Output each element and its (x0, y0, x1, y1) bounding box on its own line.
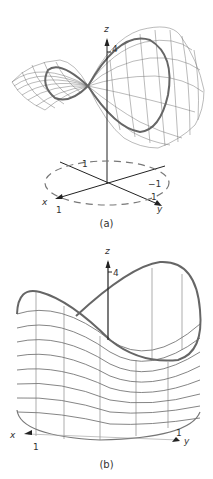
x-tick-label: 1 (33, 442, 39, 452)
saddle-surface-plot: z 4 1 −1 1 x 1 y (0, 0, 213, 240)
y-axis-label: y (156, 204, 163, 214)
panel-b: z 4 x 1 1 y (b) (0, 240, 213, 479)
panel-a: z 4 1 −1 1 x 1 y (a) (0, 0, 213, 240)
y-tick-label: 1 (151, 192, 157, 202)
x-tick-label: 1 (56, 205, 62, 215)
x-arrow-icon (55, 194, 63, 199)
base-circle (17, 410, 200, 440)
caption-a: (a) (0, 218, 213, 229)
caption-b: (b) (0, 459, 213, 470)
cylinder-saddle-plot: z 4 x 1 1 y (0, 240, 213, 479)
neg-x-tick-label: 1 (82, 159, 88, 169)
z-arrow-icon (105, 38, 110, 46)
x-axis-label: x (9, 430, 16, 440)
y-tick-label: 1 (176, 428, 182, 438)
x-axis-label: x (41, 197, 48, 207)
x-arrow-icon (24, 430, 32, 435)
z-arrow-icon (106, 260, 111, 268)
z-tick-label: 4 (112, 44, 118, 54)
top-edge-curve (17, 262, 201, 361)
y-axis-label: y (183, 436, 190, 446)
neg-y-tick-label: −1 (148, 179, 161, 189)
z-tick-label: 4 (113, 268, 119, 278)
z-axis-label: z (103, 24, 109, 34)
z-axis-label: z (104, 246, 110, 256)
